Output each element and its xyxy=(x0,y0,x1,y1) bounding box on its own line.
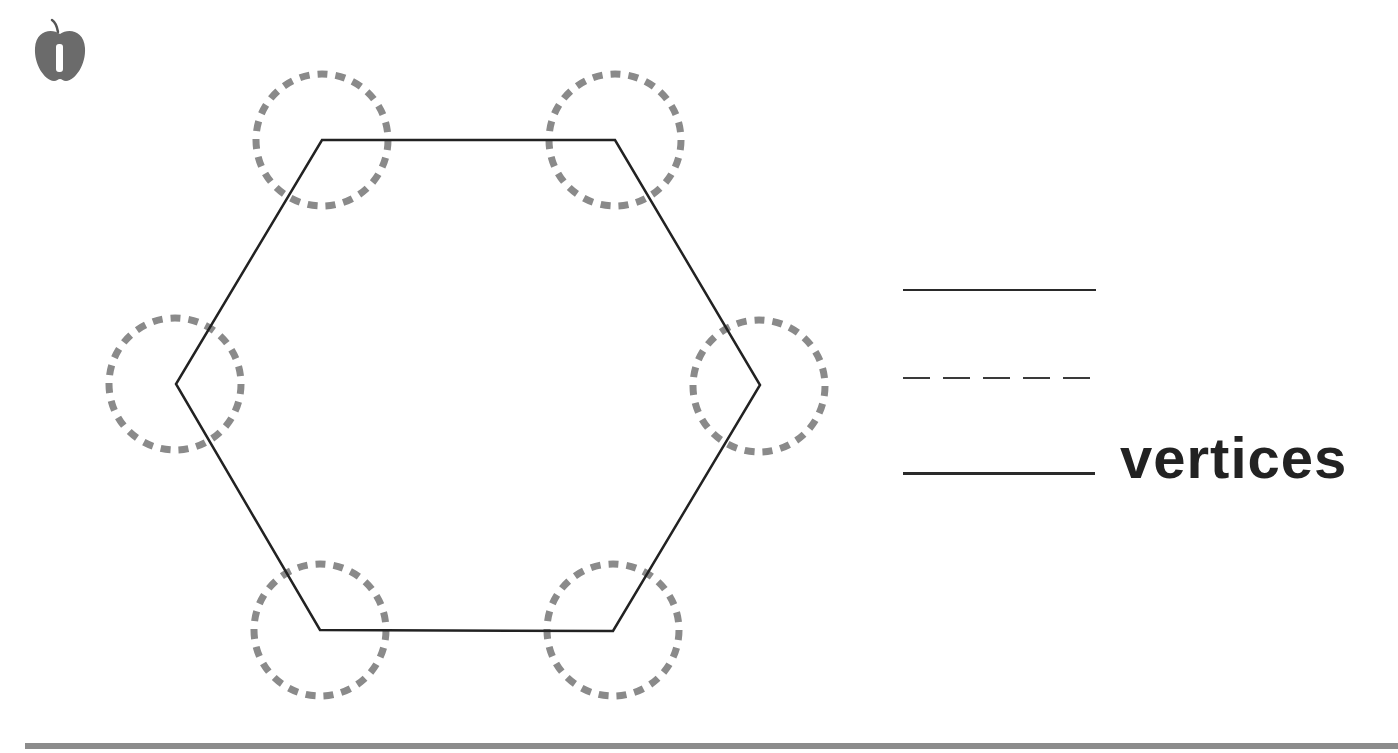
bottom-divider xyxy=(25,743,1398,749)
answer-line-faces xyxy=(903,289,1096,291)
vertices-label: vertices xyxy=(1120,423,1347,493)
worksheet-page: vertices xyxy=(0,0,1398,753)
vertex-highlight-circles xyxy=(109,74,825,696)
hexagon-figure xyxy=(0,0,1398,753)
hexagon-outline xyxy=(176,140,760,631)
answer-line-edges xyxy=(903,377,1091,379)
answer-line-vertices xyxy=(903,472,1095,475)
